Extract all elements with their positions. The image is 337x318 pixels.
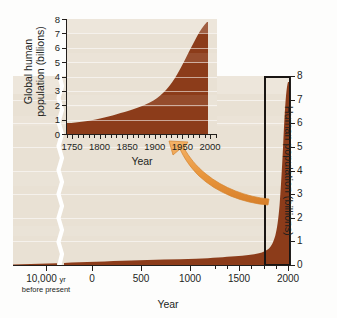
main-ytick-6: 6	[297, 118, 303, 128]
main-xtick-3: 1000	[179, 273, 201, 284]
main-xtick-5: 2000	[277, 273, 299, 284]
main-chart-x-axis-title: Year	[157, 298, 178, 310]
main-ytick-4: 4	[297, 166, 303, 176]
main-xtick-4: 1500	[228, 273, 250, 284]
inset-xtick-1950: 1950	[172, 141, 193, 152]
main-chart-y-axis-title: Human population (billions)	[283, 78, 295, 264]
main-chart-x-axis	[13, 265, 291, 266]
main-ytick-5: 5	[297, 142, 303, 152]
inset-ytick-8: 8	[55, 15, 60, 25]
main-xtick-2: 500	[133, 273, 150, 284]
inset-ytick-7: 7	[55, 29, 60, 39]
main-ytick-3: 3	[297, 189, 303, 199]
inset-ytick-1: 1	[55, 115, 60, 125]
inset-ytick-3: 3	[55, 86, 60, 96]
main-xtick-0: 10,000 yr	[26, 273, 66, 285]
inset-xtick-1900: 1900	[144, 141, 165, 152]
main-xtick-0-label: 10,000	[26, 273, 57, 284]
main-xtick-0-unit: yr	[60, 275, 66, 284]
inset-ytick-2: 2	[55, 101, 60, 111]
main-xtick-1: 0	[89, 273, 95, 284]
main-ytick-7: 7	[297, 95, 303, 105]
inset-xtick-1750: 1750	[61, 141, 82, 152]
inset-chart-y-axis-title: Global human population (billions)	[22, 9, 48, 134]
inset-chart: 8 7 6 5 4 3 2 1 0 Global human populatio…	[10, 8, 217, 153]
main-ytick-0: 0	[297, 260, 303, 270]
inset-chart-plot-area	[67, 19, 217, 134]
inset-xtick-1800: 1800	[89, 141, 110, 152]
inset-ytick-5: 5	[55, 58, 60, 68]
inset-ytick-0: 0	[55, 130, 60, 140]
inset-ytick-6: 6	[55, 43, 60, 53]
inset-ytick-4: 4	[55, 72, 60, 82]
inset-chart-x-axis-title: Year	[131, 155, 152, 167]
population-growth-figure: 8 7 6 5 4 3 2 1 0 Human population (bill…	[0, 0, 337, 318]
main-ytick-1: 1	[297, 236, 303, 246]
main-ytick-8: 8	[297, 71, 303, 81]
main-xtick-0-sublabel: before present	[22, 285, 70, 294]
inset-xtick-2000: 2000	[199, 141, 220, 152]
inset-y-title-line2: population (billions)	[34, 26, 46, 116]
main-ytick-2: 2	[297, 213, 303, 223]
inset-xtick-1850: 1850	[117, 141, 138, 152]
inset-y-title-line1: Global human	[22, 39, 34, 104]
